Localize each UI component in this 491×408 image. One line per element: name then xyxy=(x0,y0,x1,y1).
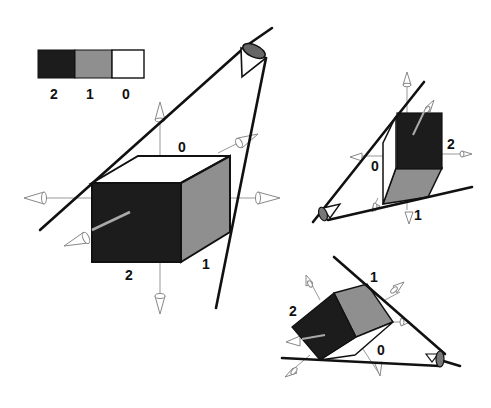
arrow-right-icon xyxy=(256,192,281,204)
arrow-up-icon xyxy=(403,72,411,87)
legend-label-2: 2 xyxy=(50,86,58,102)
arrow-left-icon xyxy=(350,153,362,161)
arrow-up-icon xyxy=(306,275,313,288)
main-label-top: 0 xyxy=(178,139,186,155)
legend-swatch-2 xyxy=(38,50,75,78)
right-view-label-1: 1 xyxy=(414,207,422,223)
bottom-view-label-0: 0 xyxy=(377,342,385,358)
arrow-diag-icon xyxy=(423,100,434,114)
bottom-view-label-2: 2 xyxy=(289,303,297,319)
right-view-label-2: 2 xyxy=(447,136,455,152)
legend-swatch-1 xyxy=(75,50,112,78)
legend: 2 1 0 xyxy=(38,50,144,102)
diagram-canvas: 2 1 0 0 1 2 xyxy=(0,0,491,408)
legend-label-1: 1 xyxy=(86,86,94,102)
arrow-front-icon xyxy=(64,231,91,246)
main-label-front: 2 xyxy=(125,267,133,283)
arrow-left-icon xyxy=(24,192,47,204)
arrow-downleft-icon xyxy=(285,367,298,377)
right-view-label-0: 0 xyxy=(371,158,379,174)
arrow-upright-icon xyxy=(390,282,404,294)
arrow-back-icon xyxy=(234,134,258,149)
view-right: 2 0 1 xyxy=(313,72,472,224)
view-bottom: 2 1 0 xyxy=(282,257,460,377)
main-label-side: 1 xyxy=(202,256,210,272)
bottom-view-label-1: 1 xyxy=(370,269,378,285)
legend-label-0: 0 xyxy=(122,86,130,102)
legend-swatch-0 xyxy=(112,50,144,78)
arrow-left-icon xyxy=(286,336,300,346)
arrow-down-icon xyxy=(405,212,413,224)
arrow-down-icon xyxy=(155,294,165,315)
arrow-right-icon xyxy=(460,151,472,157)
